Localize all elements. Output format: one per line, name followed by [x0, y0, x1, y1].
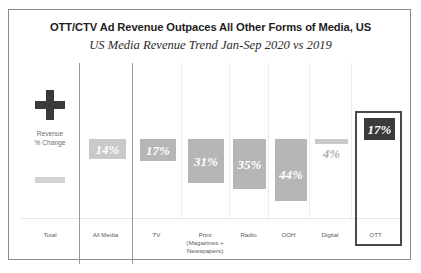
- bar-print[interactable]: 31%: [188, 139, 224, 183]
- plus-icon: [35, 90, 65, 120]
- axis-baseline: [21, 218, 400, 219]
- label-divider-all-media: [132, 218, 133, 264]
- bar-all-media[interactable]: 14%: [89, 139, 126, 159]
- bar-label-all-media: 14%: [89, 142, 126, 158]
- bar-label-radio: 35%: [233, 157, 266, 173]
- label-divider-total: [79, 218, 80, 264]
- chart-screenshot: OTT/CTV Ad Revenue Outpaces All Other Fo…: [0, 0, 421, 273]
- x-label-ott: OTT: [351, 231, 400, 239]
- x-label-radio: Radio: [229, 231, 268, 239]
- column-divider-tv: [181, 63, 182, 218]
- x-label-print-line1: Print: [181, 231, 229, 239]
- x-label-tv: TV: [132, 231, 181, 239]
- y-axis-caption: Revenue % Change: [21, 129, 79, 147]
- x-label-ooh: OOH: [268, 231, 309, 239]
- column-divider-total: [79, 63, 80, 218]
- x-label-total: Total: [21, 231, 79, 239]
- column-divider-print: [229, 63, 230, 218]
- bar-digital[interactable]: 4%: [315, 139, 348, 144]
- column-divider-ooh: [309, 63, 310, 218]
- bar-ooh[interactable]: 44%: [275, 139, 307, 201]
- x-label-print-line3: Newspapers): [181, 247, 229, 255]
- chart-frame: OTT/CTV Ad Revenue Outpaces All Other Fo…: [8, 9, 411, 260]
- bar-label-digital: 4%: [315, 146, 348, 162]
- bar-label-print: 31%: [188, 154, 224, 170]
- x-label-print: Print (Magazines + Newspapers): [181, 231, 229, 255]
- x-label-all-media: All Media: [79, 231, 132, 239]
- column-divider-digital: [351, 63, 352, 218]
- y-axis-caption-line2: % Change: [21, 138, 79, 147]
- minus-icon: [35, 177, 65, 183]
- plot-area: Revenue % Change 14% 17% 31%: [21, 55, 400, 251]
- bar-radio[interactable]: 35%: [233, 139, 266, 189]
- x-label-print-line2: (Magazines +: [181, 239, 229, 247]
- bar-label-ooh: 44%: [275, 167, 307, 183]
- chart-subtitle: US Media Revenue Trend Jan-Sep 2020 vs 2…: [9, 38, 412, 53]
- bar-label-tv: 17%: [140, 143, 176, 159]
- ott-highlight-box: [355, 111, 402, 246]
- column-divider-all-media: [132, 63, 133, 218]
- chart-title: OTT/CTV Ad Revenue Outpaces All Other Fo…: [9, 21, 412, 33]
- y-axis-caption-line1: Revenue: [21, 129, 79, 138]
- column-divider-radio: [268, 63, 269, 218]
- x-label-digital: Digital: [309, 231, 351, 239]
- bar-tv[interactable]: 17%: [140, 139, 176, 161]
